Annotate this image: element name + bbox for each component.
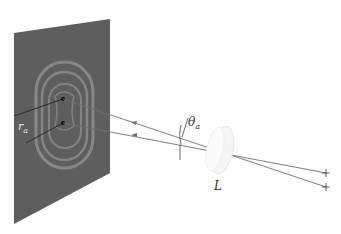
source-1 bbox=[322, 169, 330, 177]
source-2 bbox=[322, 183, 330, 191]
lens-label: L bbox=[213, 179, 222, 193]
angle-label: θa bbox=[188, 115, 200, 131]
angle-arc bbox=[180, 125, 182, 145]
diagram-canvas: ra θa L bbox=[0, 0, 341, 234]
